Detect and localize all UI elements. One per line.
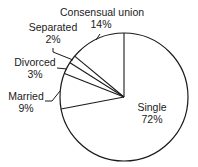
label-divorced-name: Divorced bbox=[12, 56, 58, 68]
leader-married bbox=[45, 91, 60, 101]
label-married: Married 9% bbox=[6, 90, 46, 114]
label-single: Single 72% bbox=[132, 101, 172, 125]
leader-divorced bbox=[57, 68, 67, 69]
label-married-name: Married bbox=[6, 90, 46, 102]
label-single-name: Single bbox=[132, 101, 172, 113]
label-divorced-pct: 3% bbox=[12, 68, 58, 80]
label-separated: Separated 2% bbox=[28, 21, 78, 45]
label-single-pct: 72% bbox=[132, 113, 172, 125]
label-separated-pct: 2% bbox=[28, 33, 78, 45]
label-separated-name: Separated bbox=[28, 21, 78, 33]
label-consensual-union-name: Consensual union bbox=[60, 6, 142, 18]
pie-chart: Consensual union 14% Separated 2% Divorc… bbox=[0, 0, 198, 167]
label-divorced: Divorced 3% bbox=[12, 56, 58, 80]
label-married-pct: 9% bbox=[6, 102, 46, 114]
